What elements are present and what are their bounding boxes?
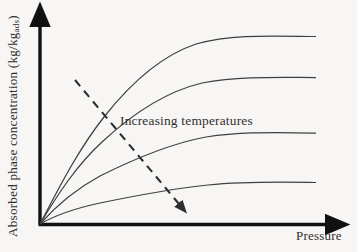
increasing-temperature-arrow — [75, 80, 179, 204]
y-axis-label-subscript: ads — [11, 20, 21, 33]
adsorption-isotherm-figure: Absorbed phase concentration (kg/kgads) … — [0, 0, 357, 252]
increasing-temperature-annotation: Increasing temperatures — [120, 113, 253, 129]
y-axis-label-container: Absorbed phase concentration (kg/kgads) — [0, 0, 26, 252]
isotherm-curve-1 — [40, 36, 316, 224]
y-axis-label-main: Absorbed phase concentration (kg/kg — [5, 33, 20, 237]
x-axis-label: Pressure — [296, 228, 342, 244]
y-axis-label: Absorbed phase concentration (kg/kgads) — [5, 15, 22, 237]
isotherm-curve-3 — [40, 133, 316, 224]
y-axis-label-tail: ) — [5, 15, 20, 20]
